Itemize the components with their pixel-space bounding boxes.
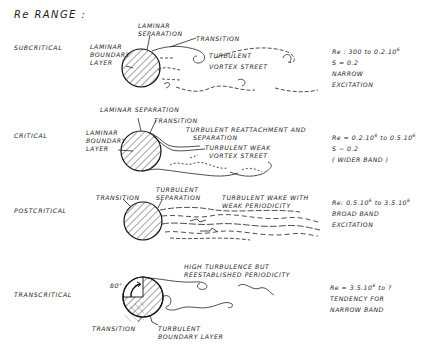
- label-transition: TRANSITION: [92, 325, 136, 333]
- label-laminar-separation: LAMINAR SEPARATION: [138, 22, 183, 38]
- params-transcritical: Re ≈ 3.5.106 to ? TENDENCY FOR NARROW BA…: [330, 280, 392, 315]
- params-critical: Re ≈ 0.2.106 to 0.5.106 S ~ 0.2 ( WIDER …: [332, 130, 416, 165]
- label-transition: TRANSITION: [154, 117, 198, 125]
- label-turbulent-weak-vortex-street: TURBULENT WEAK VORTEX STREET: [205, 144, 271, 160]
- regime-label-critical: CRITICAL: [14, 132, 48, 140]
- label-angle-80: 80°: [110, 282, 123, 290]
- params-subcritical: Re : 300 to 0.2.106 S ≈ 0.2 NARROW EXCIT…: [332, 44, 400, 90]
- label-laminar-separation: LAMINAR SEPARATION: [100, 106, 179, 114]
- postcritical-cylinder-icon: [124, 202, 162, 240]
- regime-label-subcritical: SUBCRITICAL: [14, 44, 62, 52]
- label-turbulent-reattachment: TURBULENT REATTACHMENT AND SEPARATION: [186, 126, 306, 142]
- params-postcritical: Re: 0.5.106 to 3.5.106 BROAD BAND EXCITA…: [332, 195, 410, 230]
- label-turbulent-wake: TURBULENT WAKE WITH WEAK PERIODICITY: [222, 194, 309, 210]
- regime-label-transcritical: TRANSCRITICAL: [14, 291, 72, 299]
- label-laminar-boundary-layer: LAMINAR BOUNDARY LAYER: [86, 129, 126, 153]
- page-title: Re RANGE :: [14, 11, 86, 19]
- regime-label-postcritical: POSTCRITICAL: [14, 207, 67, 215]
- label-transition: TRANSITION: [196, 35, 240, 43]
- label-turbulent-boundary-layer: TURBULENT BOUNDARY LAYER: [158, 325, 223, 341]
- label-high-turbulence: HIGH TURBULENCE BUT REESTABLISHED PERIOD…: [184, 263, 290, 279]
- label-turbulent-vortex-street: TURBULENT VORTEX STREET: [209, 50, 268, 72]
- label-transition: TRANSITION: [96, 194, 140, 202]
- label-turbulent-separation: TURBULENT SEPARATION: [156, 186, 201, 202]
- label-laminar-boundary-layer: LAMINAR BOUNDARY LAYER: [90, 43, 130, 67]
